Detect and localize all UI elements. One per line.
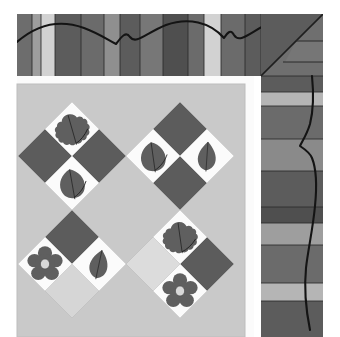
inner-sashing-vertical [245,76,254,337]
top-border-strip [245,14,261,76]
inner-sashing-horizontal [17,76,254,84]
quilt-illustration [0,0,340,337]
quilt-photograph [0,0,340,337]
right-border-strip [261,106,323,139]
top-border-strip [81,14,104,76]
top-border-strip [221,14,245,76]
top-border-strip [17,14,32,76]
center-panel [17,84,245,337]
top-border-strip [104,14,120,76]
right-border-strip [261,283,323,301]
right-border-strip [261,223,323,245]
right-border-strip [261,245,323,283]
center-background [17,84,245,337]
top-border-strip [32,14,41,76]
top-border-strip [140,14,163,76]
top-border-strip [204,14,221,76]
top-border-strip [120,14,140,76]
right-border [261,14,323,337]
right-border-strip [261,171,323,207]
right-border-corner-miter [261,14,323,76]
right-border-strip [261,301,323,337]
